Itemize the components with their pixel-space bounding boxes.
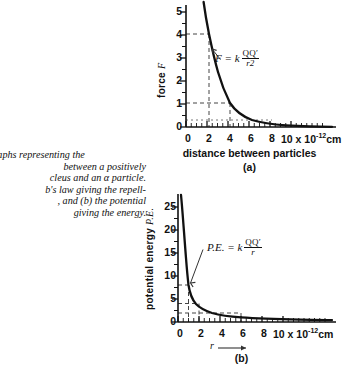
caption-line: , and (b) the potential xyxy=(0,195,146,207)
chart-a-guide-lines xyxy=(186,34,230,127)
caption-line: b's law giving the repell- xyxy=(0,184,146,196)
caption-line: cleus and an α particle. xyxy=(0,172,146,184)
figure-root: Graphs representing the between a positi… xyxy=(0,0,345,365)
chart-b-plot-svg xyxy=(140,188,345,365)
chart-b-annotation-arrow xyxy=(191,250,204,288)
chart-force-vs-distance: force F 0 1 2 3 4 5 0 2 4 6 8 10 x 10-12… xyxy=(150,2,345,172)
chart-a-curve xyxy=(204,2,332,127)
chart-a-plot-svg xyxy=(150,2,345,172)
caption-line: Graphs representing the xyxy=(0,149,146,161)
caption-line: giving the energy. xyxy=(0,207,146,219)
caption-line: between a positively xyxy=(0,161,146,173)
figure-caption: Graphs representing the between a positi… xyxy=(0,149,146,219)
chart-b-curve xyxy=(181,195,332,320)
chart-potential-energy-vs-r: potential energy P.E. 0 5 10 15 20 25 0 … xyxy=(140,188,345,365)
